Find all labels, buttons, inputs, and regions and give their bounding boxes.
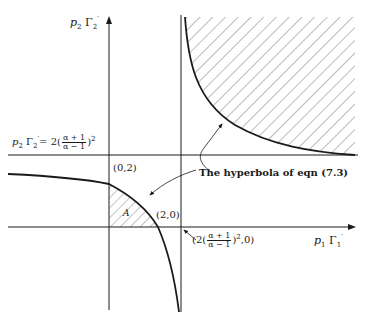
upper-hatched-region: [185, 17, 355, 155]
annotation-arrow-lower: [150, 170, 196, 195]
hyperbola-annotation: The hyperbola of eqn (7.3): [199, 168, 348, 178]
x-intercept-fraction: α + 1α − 1: [207, 232, 231, 249]
asymptote-fraction: α + 1α − 1: [62, 134, 86, 151]
x-axis-label: p1 Γ1′: [314, 234, 343, 249]
feasible-region-A: [109, 184, 158, 227]
hyperbola-diagram: [0, 0, 367, 326]
asymptote-label: p2 Γ2′= 2(α + 1α − 1)2: [12, 134, 96, 151]
point-2-0-label: (2,0): [156, 210, 180, 220]
hyperbola-lower-branch: [8, 174, 179, 312]
annotation-arrow-upper: [200, 124, 222, 173]
x-intercept-label: (2(α + 1α − 1)2,0): [192, 232, 254, 249]
y-axis-label: p2 Γ2′: [70, 16, 99, 31]
region-A-label: A: [123, 209, 130, 218]
point-0-2-label: (0,2): [113, 163, 137, 173]
